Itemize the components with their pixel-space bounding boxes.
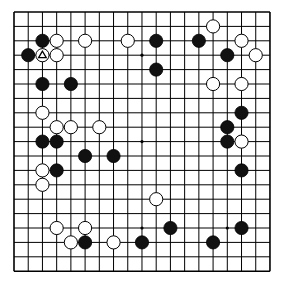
black-stone[interactable] (235, 106, 248, 119)
black-stone[interactable] (135, 236, 148, 249)
white-stone[interactable] (50, 221, 63, 234)
white-stone[interactable] (64, 121, 77, 134)
white-stone[interactable] (50, 49, 63, 62)
black-stone[interactable] (36, 77, 49, 90)
white-stone[interactable] (249, 49, 262, 62)
white-stone[interactable] (150, 193, 163, 206)
white-stone[interactable] (206, 77, 219, 90)
white-stone[interactable] (235, 34, 248, 47)
black-stone[interactable] (221, 49, 234, 62)
black-stone[interactable] (221, 135, 234, 148)
black-stone[interactable] (36, 135, 49, 148)
white-stone[interactable] (36, 178, 49, 191)
white-stone[interactable] (121, 34, 134, 47)
white-stone[interactable] (79, 221, 92, 234)
white-stone[interactable] (93, 121, 106, 134)
black-stone[interactable] (235, 164, 248, 177)
black-stone[interactable] (107, 149, 120, 162)
black-stone[interactable] (150, 63, 163, 76)
star-point (140, 54, 143, 57)
black-stone[interactable] (79, 236, 92, 249)
black-stone[interactable] (150, 34, 163, 47)
white-stone[interactable] (50, 121, 63, 134)
white-stone[interactable] (36, 164, 49, 177)
black-stone[interactable] (64, 77, 77, 90)
black-stone[interactable] (50, 164, 63, 177)
white-stone[interactable] (107, 236, 120, 249)
white-stone[interactable] (79, 34, 92, 47)
black-stone[interactable] (36, 34, 49, 47)
black-stone[interactable] (221, 121, 234, 134)
white-stone[interactable] (235, 135, 248, 148)
go-board-canvas[interactable] (0, 0, 282, 288)
go-board[interactable] (0, 0, 282, 288)
white-stone[interactable] (206, 20, 219, 33)
star-point (226, 226, 229, 229)
white-stone[interactable] (36, 106, 49, 119)
black-stone[interactable] (50, 135, 63, 148)
black-stone[interactable] (79, 149, 92, 162)
star-point (140, 140, 143, 143)
white-stone[interactable] (50, 34, 63, 47)
black-stone[interactable] (192, 34, 205, 47)
black-stone[interactable] (164, 221, 177, 234)
black-stone[interactable] (206, 236, 219, 249)
black-stone[interactable] (235, 221, 248, 234)
black-stone[interactable] (22, 49, 35, 62)
white-stone[interactable] (64, 236, 77, 249)
white-stone[interactable] (235, 77, 248, 90)
star-point (140, 226, 143, 229)
